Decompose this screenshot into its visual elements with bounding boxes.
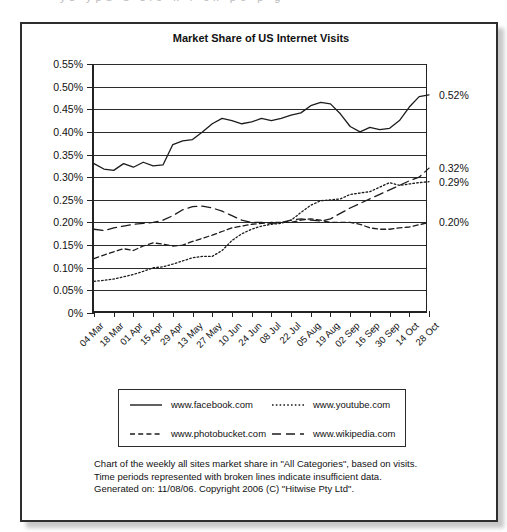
legend-line-swatch (271, 429, 305, 439)
legend-line-swatch (129, 429, 163, 439)
series-line (94, 182, 429, 282)
legend-item[interactable]: www.youtube.com (271, 390, 390, 419)
legend-label: www.youtube.com (313, 399, 390, 410)
y-axis-tick (87, 245, 94, 246)
series-end-label: 0.32% (439, 162, 469, 174)
legend-item[interactable]: www.photobucket.com (129, 419, 266, 448)
y-axis-tick (87, 290, 94, 291)
y-axis-tick (87, 200, 94, 201)
y-axis-label: 0.20% (53, 216, 83, 228)
series-line (94, 168, 429, 230)
series-lines (94, 64, 429, 313)
legend-row: www.photobucket.comwww.wikipedia.com (119, 419, 405, 448)
y-axis-label: 0% (68, 307, 83, 319)
series-end-label: 0.52% (439, 89, 469, 101)
y-axis-tick (87, 155, 94, 156)
chart-legend: www.facebook.comwww.youtube.comwww.photo… (118, 389, 406, 447)
series-line (94, 219, 429, 259)
chart-page: Market Share of US Internet Visits 0.55%… (20, 22, 498, 522)
plot-area: 0.55%0.50%0.45%0.40%0.35%0.30%0.25%0.20%… (92, 64, 427, 313)
x-axis-label: 08 Jul (257, 320, 283, 346)
y-axis-label: 0.40% (53, 126, 83, 138)
legend-row: www.facebook.comwww.youtube.com (119, 390, 405, 419)
y-axis-tick (87, 222, 94, 223)
y-axis-tick (87, 268, 94, 269)
y-axis-label: 0.15% (53, 239, 83, 251)
y-axis-label: 0.10% (53, 262, 83, 274)
legend-item[interactable]: www.facebook.com (129, 390, 253, 419)
series-end-label: 0.20% (439, 216, 469, 228)
series-end-label: 0.29% (439, 176, 469, 188)
legend-line-swatch (129, 400, 163, 410)
y-axis-tick (87, 177, 94, 178)
caption-line-1: Chart of the weekly all sites market sha… (94, 458, 486, 471)
page-top-bleed: ys ypu d sle k i ex pe p g (0, 0, 507, 20)
series-line (94, 95, 429, 171)
y-axis-tick (87, 132, 94, 133)
caption-line-2: Time periods represented with broken lin… (94, 471, 486, 484)
legend-label: www.photobucket.com (171, 428, 266, 439)
chart-caption: Chart of the weekly all sites market sha… (94, 458, 486, 496)
y-axis-tick (87, 87, 94, 88)
x-axis-tick (429, 311, 430, 317)
legend-label: www.wikipedia.com (313, 428, 395, 439)
cut-off-text: ys ypu d sle k i ex pe p g (60, 0, 284, 3)
caption-line-3: Generated on: 11/08/06. Copyright 2006 (… (94, 483, 486, 496)
y-axis-label: 0.35% (53, 149, 83, 161)
y-axis-label: 0.30% (53, 171, 83, 183)
y-axis-tick (87, 313, 94, 314)
y-axis-tick (87, 64, 94, 65)
legend-item[interactable]: www.wikipedia.com (271, 419, 395, 448)
legend-label: www.facebook.com (171, 399, 253, 410)
y-axis-tick (87, 109, 94, 110)
y-axis-label: 0.55% (53, 58, 83, 70)
y-axis-label: 0.05% (53, 284, 83, 296)
y-axis-label: 0.45% (53, 103, 83, 115)
y-axis-label: 0.25% (53, 194, 83, 206)
y-axis-label: 0.50% (53, 81, 83, 93)
legend-line-swatch (271, 400, 305, 410)
plot-area-wrapper: 0.55%0.50%0.45%0.40%0.35%0.30%0.25%0.20%… (22, 24, 500, 324)
